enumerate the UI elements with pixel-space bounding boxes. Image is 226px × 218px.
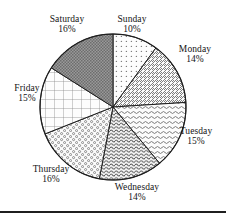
bottom-divider-rule bbox=[0, 211, 226, 213]
slice-label-tuesday-name: Tuesday bbox=[168, 126, 224, 136]
slice-label-thursday: Thursday 16% bbox=[20, 164, 82, 185]
slice-label-wednesday-percent: 14% bbox=[104, 192, 170, 202]
slice-label-tuesday: Tuesday 15% bbox=[168, 126, 224, 147]
slice-label-friday-percent: 15% bbox=[3, 93, 51, 103]
slice-label-wednesday-name: Wednesday bbox=[104, 182, 170, 192]
slice-label-friday-name: Friday bbox=[3, 83, 51, 93]
slice-label-saturday-name: Saturday bbox=[36, 14, 98, 24]
slice-label-monday-percent: 14% bbox=[167, 54, 223, 64]
slice-label-thursday-percent: 16% bbox=[20, 174, 82, 184]
slice-label-saturday: Saturday 16% bbox=[36, 14, 98, 35]
slice-label-sunday: Sunday 10% bbox=[104, 14, 160, 35]
slice-label-monday: Monday 14% bbox=[167, 44, 223, 65]
slice-label-tuesday-percent: 15% bbox=[168, 136, 224, 146]
slice-label-saturday-percent: 16% bbox=[36, 24, 98, 34]
slice-label-monday-name: Monday bbox=[167, 44, 223, 54]
slice-label-sunday-percent: 10% bbox=[104, 24, 160, 34]
slice-label-thursday-name: Thursday bbox=[20, 164, 82, 174]
slice-label-sunday-name: Sunday bbox=[104, 14, 160, 24]
slice-label-friday: Friday 15% bbox=[3, 83, 51, 104]
slice-label-wednesday: Wednesday 14% bbox=[104, 182, 170, 203]
pie-slices-group bbox=[40, 34, 186, 180]
pie-chart-figure: Sunday 10% Monday 14% Tuesday 15% Wednes… bbox=[0, 0, 226, 218]
